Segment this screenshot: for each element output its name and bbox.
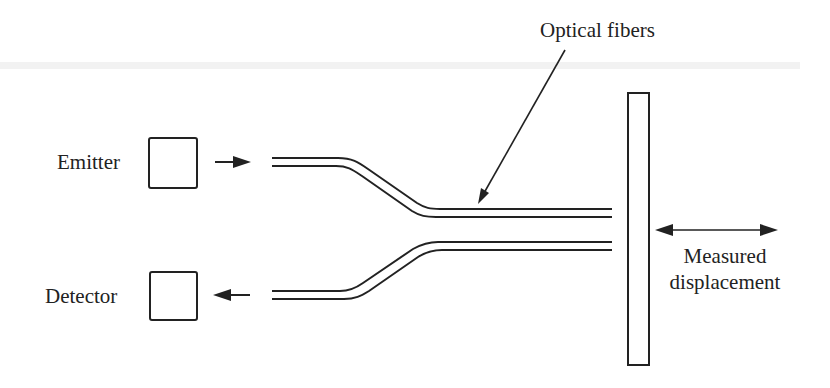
detector-box (150, 272, 197, 320)
displacement-double-arrow-icon (655, 224, 778, 236)
target-plate (628, 93, 649, 365)
optical-fibers-label: Optical fibers (540, 20, 655, 41)
detector-label: Detector (45, 286, 117, 307)
diagram-canvas: Optical fibers Emitter Detector Measured… (0, 0, 830, 388)
scan-artifact-band (0, 62, 800, 69)
measured-label: Measured (660, 246, 790, 267)
transmit-fiber (272, 158, 612, 217)
receive-fiber (272, 242, 612, 299)
displacement-label: displacement (655, 272, 795, 293)
emitter-box (149, 138, 197, 188)
diagram-svg (0, 0, 830, 388)
detector-arrow-icon (213, 289, 250, 301)
emitter-label: Emitter (57, 152, 120, 173)
optical-fibers-pointer (478, 50, 565, 204)
emitter-arrow-icon (215, 156, 251, 168)
